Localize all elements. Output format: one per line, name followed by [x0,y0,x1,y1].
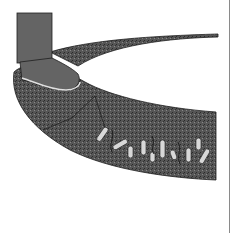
illustration [0,0,230,233]
soil-surface-band [50,34,218,66]
boot-on-soil-drawing [0,0,230,233]
boot-shaft [17,13,52,63]
right-border [229,0,230,233]
